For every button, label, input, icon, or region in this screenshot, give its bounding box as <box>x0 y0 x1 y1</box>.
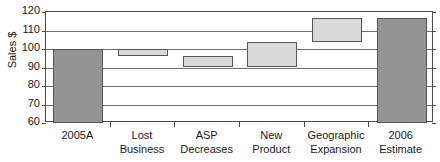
x-label-line: Expansion <box>304 142 369 156</box>
waterfall-chart: Sales $ 12011010090807060 2005ALostBusin… <box>0 0 440 162</box>
bar-geographic-expansion <box>312 18 362 42</box>
bar-asp-decreases <box>183 56 233 67</box>
x-label-new-product: NewProduct <box>239 128 304 156</box>
y-tick-label: 110 <box>14 24 40 35</box>
x-tick-mark <box>304 122 305 127</box>
x-label-line: 2006 <box>368 128 433 142</box>
y-tick-label: 90 <box>14 61 40 72</box>
x-label-line: New <box>239 128 304 142</box>
x-label-2005a: 2005A <box>45 128 110 142</box>
gridline <box>46 86 432 87</box>
x-label-asp-decreases: ASPDecreases <box>174 128 239 156</box>
bar-new-product <box>247 42 297 68</box>
x-label-geographic-expansion: GeographicExpansion <box>304 128 369 156</box>
x-tick-mark <box>110 122 111 127</box>
y-tick-mark-right <box>432 49 436 50</box>
gridline <box>46 31 432 32</box>
x-tick-mark <box>239 122 240 127</box>
y-tick-label: 100 <box>14 42 40 53</box>
x-label-line: Decreases <box>174 142 239 156</box>
y-tick-label: 120 <box>14 5 40 16</box>
bar-lost-business <box>118 49 168 56</box>
x-label-2006-estimate: 2006Estimate <box>368 128 433 156</box>
y-tick-label: 80 <box>14 79 40 90</box>
y-tick-mark <box>42 86 46 87</box>
y-tick-mark-right <box>432 12 436 13</box>
plot-area <box>45 11 433 122</box>
y-tick-mark-right <box>432 123 436 124</box>
y-tick-mark-right <box>432 31 436 32</box>
x-label-line: Lost <box>110 128 175 142</box>
y-tick-mark <box>42 49 46 50</box>
gridline <box>46 49 432 50</box>
x-label-line: Geographic <box>304 128 369 142</box>
y-tick-mark <box>42 123 46 124</box>
y-tick-mark-right <box>432 86 436 87</box>
bar-2005a <box>53 49 103 123</box>
y-tick-mark <box>42 68 46 69</box>
gridline <box>46 105 432 106</box>
x-tick-mark <box>174 122 175 127</box>
bar-2006-estimate <box>377 18 427 123</box>
y-tick-mark <box>42 31 46 32</box>
x-label-line: ASP <box>174 128 239 142</box>
y-tick-mark <box>42 12 46 13</box>
gridline <box>46 68 432 69</box>
y-tick-label: 70 <box>14 98 40 109</box>
y-tick-mark-right <box>432 68 436 69</box>
x-label-line: Estimate <box>368 142 433 156</box>
x-label-line: Product <box>239 142 304 156</box>
x-label-line: Business <box>110 142 175 156</box>
y-tick-label: 60 <box>14 116 40 127</box>
y-axis-tick-labels: 12011010090807060 <box>14 0 40 162</box>
x-label-line: 2005A <box>45 128 110 142</box>
y-tick-mark <box>42 105 46 106</box>
x-label-lost-business: LostBusiness <box>110 128 175 156</box>
x-tick-mark <box>368 122 369 127</box>
y-tick-mark-right <box>432 105 436 106</box>
